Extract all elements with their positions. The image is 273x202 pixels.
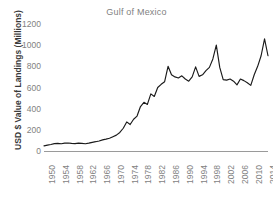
y-tick-400: 400 bbox=[0, 104, 41, 114]
x-axis-line bbox=[44, 151, 268, 152]
x-tick-1958: 1958 bbox=[75, 165, 85, 184]
plot-area bbox=[44, 24, 268, 151]
x-tick-2014: 2014 bbox=[268, 165, 273, 184]
y-axis-tick-labels: 020040060080010001200 bbox=[0, 24, 41, 151]
chart-title: Gulf of Mexico bbox=[0, 7, 273, 17]
chart-container: Gulf of Mexico USD $ Value of Landings (… bbox=[0, 0, 273, 202]
y-tick-800: 800 bbox=[0, 61, 41, 71]
y-tick-1200: 1200 bbox=[0, 19, 41, 29]
x-axis-tick-labels: 1950195419581962196619701974197819821986… bbox=[44, 154, 268, 200]
data-line-chart bbox=[44, 24, 268, 151]
x-tick-1974: 1974 bbox=[130, 165, 140, 184]
x-tick-1982: 1982 bbox=[157, 165, 167, 184]
x-tick-2006: 2006 bbox=[240, 165, 250, 184]
x-tick-1998: 1998 bbox=[212, 165, 222, 184]
y-tick-1000: 1000 bbox=[0, 40, 41, 50]
series-line-gulf-of-mexico bbox=[44, 39, 268, 146]
x-tick-1994: 1994 bbox=[199, 165, 209, 184]
x-tick-1966: 1966 bbox=[102, 165, 112, 184]
x-tick-2010: 2010 bbox=[254, 165, 264, 184]
y-tick-200: 200 bbox=[0, 125, 41, 135]
x-tick-1978: 1978 bbox=[143, 165, 153, 184]
x-tick-1986: 1986 bbox=[171, 165, 181, 184]
x-tick-1954: 1954 bbox=[61, 165, 71, 184]
y-tick-0: 0 bbox=[0, 146, 41, 156]
x-tick-1962: 1962 bbox=[88, 165, 98, 184]
x-tick-1950: 1950 bbox=[47, 165, 57, 184]
x-tick-1990: 1990 bbox=[185, 165, 195, 184]
y-tick-600: 600 bbox=[0, 83, 41, 93]
x-tick-2002: 2002 bbox=[226, 165, 236, 184]
x-tick-1970: 1970 bbox=[116, 165, 126, 184]
